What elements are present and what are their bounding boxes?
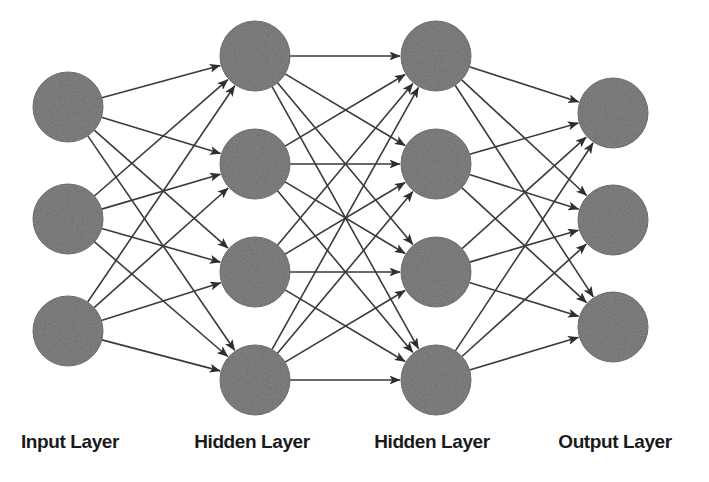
connection-edge (469, 67, 578, 102)
connection-edge (102, 340, 220, 371)
connection-edge (462, 244, 586, 356)
neuron-node-hidden1-3 (220, 237, 290, 307)
layer-label-hidden-1: Hidden Layer (194, 432, 310, 451)
network-graphic (0, 0, 709, 482)
neuron-node-hidden2-2 (401, 129, 471, 199)
neuron-node-input-1 (33, 72, 103, 142)
layer-label-output: Output Layer (558, 432, 671, 451)
connection-edge (462, 137, 586, 249)
neural-network-diagram: Input Layer Hidden Layer Hidden Layer Ou… (0, 0, 709, 482)
neuron-node-input-3 (33, 296, 103, 366)
neuron-node-output-2 (578, 185, 648, 255)
neuron-node-hidden2-4 (401, 345, 471, 415)
neuron-node-hidden1-2 (220, 129, 290, 199)
neuron-node-output-1 (578, 78, 648, 148)
connection-edge (102, 65, 221, 97)
layer-label-input: Input Layer (21, 432, 119, 451)
neuron-node-hidden1-4 (220, 345, 290, 415)
connection-edge (469, 175, 578, 210)
connection-edge (470, 337, 579, 370)
connection-edge (101, 283, 220, 321)
neuron-node-hidden1-1 (220, 21, 290, 91)
layer-label-hidden-2: Hidden Layer (374, 432, 490, 451)
neuron-node-input-2 (33, 184, 103, 254)
connection-edge (102, 229, 221, 263)
connection-edge (94, 130, 228, 248)
neuron-node-hidden2-3 (401, 237, 471, 307)
neuron-node-output-3 (578, 292, 648, 362)
connection-edge (470, 123, 579, 154)
connection-edge (102, 174, 221, 209)
connection-edge (88, 86, 235, 302)
connection-edge (101, 117, 220, 153)
node-group (33, 21, 648, 415)
connection-edge (455, 143, 593, 351)
edge-group (88, 56, 594, 380)
neuron-node-hidden2-1 (401, 21, 471, 91)
